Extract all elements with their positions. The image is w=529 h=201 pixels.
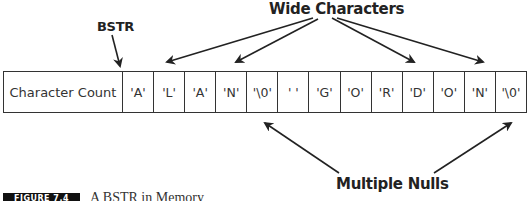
figure-number-badge: FIGURE 7.4: [3, 193, 80, 201]
wide-arrow-icon: [332, 18, 414, 62]
wide-arrow-icon: [236, 19, 318, 62]
wide-arrow-icon: [167, 18, 313, 62]
arrows-layer: [0, 0, 529, 201]
bstr-arrow-icon: [112, 35, 120, 66]
wide-arrow-icon: [337, 18, 483, 62]
null-arrow-icon: [434, 123, 511, 173]
null-arrow-icon: [265, 123, 339, 173]
figure-caption: A BSTR in Memory: [90, 190, 204, 201]
